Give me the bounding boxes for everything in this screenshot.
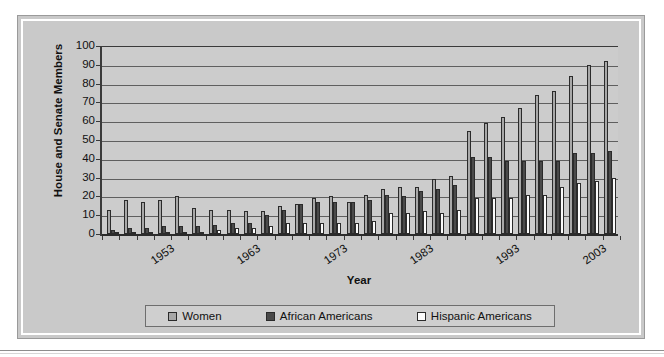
- bar-group: [293, 47, 310, 234]
- x-axis-tick-mark: [413, 236, 414, 240]
- y-axis-tick-label: 40: [82, 153, 95, 165]
- x-axis-tick-mark: [326, 236, 327, 240]
- x-axis-tick-mark: [534, 236, 535, 240]
- bar-hispanic: [457, 210, 461, 234]
- x-axis-tick-mark: [465, 236, 466, 240]
- bar-group: [447, 47, 464, 234]
- x-axis-tick-label: 2003: [580, 242, 608, 267]
- y-axis-tick-mark: [96, 178, 100, 179]
- legend-swatch-hispanic: [417, 312, 426, 321]
- x-axis-tick-mark: [102, 236, 103, 240]
- legend-swatch-african: [266, 312, 275, 321]
- bar-group: [190, 47, 207, 234]
- x-axis-tick-mark: [361, 236, 362, 240]
- legend-item[interactable]: Hispanic Americans: [417, 310, 532, 322]
- x-axis-title: Year: [100, 274, 618, 286]
- bar-group: [550, 47, 567, 234]
- page-divider-rule-secondary: [0, 353, 664, 354]
- x-axis-tick-mark: [396, 236, 397, 240]
- bar-group: [138, 47, 155, 234]
- x-axis-tick-mark: [620, 236, 621, 240]
- bar-group: [378, 47, 395, 234]
- legend-item[interactable]: Women: [168, 310, 221, 322]
- bar-group: [241, 47, 258, 234]
- y-axis-tick-label: 20: [82, 191, 95, 203]
- bar-group: [498, 47, 515, 234]
- page-divider-rule: [0, 350, 664, 351]
- x-axis-tick-mark: [206, 236, 207, 240]
- x-axis-tick-mark: [603, 236, 604, 240]
- bar-hispanic: [509, 198, 513, 234]
- y-axis-tick-mark: [96, 46, 100, 47]
- y-axis-tick-label: 0: [89, 228, 95, 240]
- bar-group: [584, 47, 601, 234]
- bar-hispanic: [440, 213, 444, 234]
- x-axis-tick-label: 1983: [408, 242, 436, 267]
- y-axis-tick-mark: [96, 84, 100, 85]
- x-axis-tick-mark: [585, 236, 586, 240]
- x-axis-tick-mark: [447, 236, 448, 240]
- legend-label: African Americans: [280, 310, 373, 322]
- y-axis-tick-mark: [96, 140, 100, 141]
- bar-group: [327, 47, 344, 234]
- x-axis-tick-mark: [344, 236, 345, 240]
- x-axis-tick-mark: [568, 236, 569, 240]
- bar-hispanic: [269, 226, 273, 234]
- bar-hispanic: [389, 213, 393, 234]
- plot-area: [100, 46, 618, 236]
- x-axis-tick-mark: [516, 236, 517, 240]
- x-axis-tick-mark: [119, 236, 120, 240]
- x-axis-tick-label: 1953: [149, 242, 177, 267]
- bar-group: [481, 47, 498, 234]
- x-axis-tick-mark: [240, 236, 241, 240]
- x-axis-tick-mark: [137, 236, 138, 240]
- x-axis-ticks: 195319631973198319932003: [100, 236, 618, 248]
- bar-hispanic: [475, 198, 479, 234]
- bar-group: [430, 47, 447, 234]
- bar-hispanic: [492, 198, 496, 234]
- bar-group: [361, 47, 378, 234]
- x-axis-tick-label: 1973: [321, 242, 349, 267]
- x-axis-tick-mark: [378, 236, 379, 240]
- y-axis-tick-label: 10: [82, 209, 95, 221]
- y-axis-tick-mark: [96, 121, 100, 122]
- bar-group: [344, 47, 361, 234]
- bar-group: [224, 47, 241, 234]
- bar-hispanic: [406, 213, 410, 234]
- x-axis-tick-mark: [309, 236, 310, 240]
- bar-group: [310, 47, 327, 234]
- y-axis-tick-label: 50: [82, 134, 95, 146]
- y-axis-tick-mark: [96, 102, 100, 103]
- x-axis-tick-mark: [188, 236, 189, 240]
- bar-group: [464, 47, 481, 234]
- bar-hispanic: [423, 211, 427, 234]
- bar-hispanic: [577, 183, 581, 234]
- bar-hispanic: [595, 181, 599, 234]
- chart-area: House and Senate Members 100908070605040…: [42, 28, 622, 283]
- bar-group: [173, 47, 190, 234]
- bar-group: [515, 47, 532, 234]
- y-axis-tick-label: 60: [82, 115, 95, 127]
- legend-item[interactable]: African Americans: [266, 310, 373, 322]
- x-axis-tick-mark: [171, 236, 172, 240]
- chart-screenshot: House and Senate Members 100908070605040…: [0, 0, 664, 357]
- bar-group: [533, 47, 550, 234]
- bar-hispanic: [372, 221, 376, 234]
- x-axis-tick-mark: [154, 236, 155, 240]
- x-axis-tick-mark: [257, 236, 258, 240]
- y-axis-tick-label: 80: [82, 78, 95, 90]
- legend-swatch-women: [168, 312, 177, 321]
- y-axis-tick-label: 100: [76, 40, 95, 52]
- bar-group: [258, 47, 275, 234]
- bar-group: [155, 47, 172, 234]
- plot-wrapper: 1009080706050403020100: [100, 46, 618, 236]
- x-axis-tick-label: 1963: [235, 242, 263, 267]
- x-axis-tick-mark: [551, 236, 552, 240]
- bar-group: [395, 47, 412, 234]
- y-axis-tick-label: 70: [82, 97, 95, 109]
- legend-label: Women: [182, 310, 221, 322]
- bar-hispanic: [286, 223, 290, 234]
- x-axis-tick-mark: [499, 236, 500, 240]
- bar-group: [275, 47, 292, 234]
- bar-hispanic: [612, 178, 616, 234]
